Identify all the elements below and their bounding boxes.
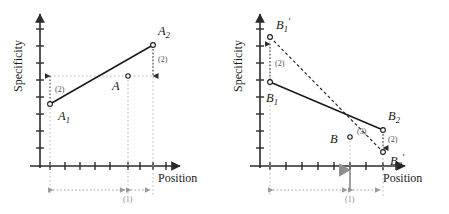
right-y-axis-label: Specificity [231, 40, 245, 92]
panel-right: Position Specificity B1′ B1 B B2 B2′ (2)… [231, 14, 422, 204]
left-label-A: A [111, 79, 120, 93]
left-segment-A1-A2 [50, 45, 153, 104]
right-x-axis-label: Position [383, 171, 422, 185]
left-label-A2: A2 [157, 24, 171, 40]
right-point-B1 [268, 80, 273, 85]
left-point-A1 [48, 102, 53, 107]
right-point-B2 [381, 128, 386, 133]
right-label-B: B [330, 132, 338, 146]
right-point-B2-prime [381, 150, 386, 155]
right-ann-B: (3) [357, 127, 367, 136]
left-y-axis-label: Specificity [11, 40, 25, 92]
left-label-A1: A1 [57, 109, 70, 125]
right-point-B1-prime [268, 35, 273, 40]
left-point-A2 [151, 43, 156, 48]
left-ann-A2: (2) [158, 55, 168, 64]
left-ann-A1: (2) [55, 85, 65, 94]
right-label-B1: B1 [266, 91, 278, 107]
diagram-svg: Position Specificity A1 A A2 (2) (2) (1) [0, 0, 449, 214]
left-x-axis-label: Position [158, 171, 197, 185]
right-ann-B1: (2) [275, 59, 285, 68]
right-label-B1-prime: B1′ [276, 16, 291, 34]
left-dim-label-1: (1) [123, 195, 133, 204]
right-point-B [348, 135, 352, 139]
figure-container: Position Specificity A1 A A2 (2) (2) (1) [0, 0, 449, 214]
right-dim-label-1: (1) [345, 195, 355, 204]
right-label-B2: B2 [388, 109, 401, 125]
right-segment-B1-B2 [270, 82, 383, 130]
left-point-A [126, 74, 130, 78]
right-guide-lines [270, 37, 383, 196]
right-label-B2-prime: B2′ [390, 152, 405, 170]
right-ann-B2: (2) [388, 135, 398, 144]
panel-left: Position Specificity A1 A A2 (2) (2) (1) [11, 14, 197, 204]
